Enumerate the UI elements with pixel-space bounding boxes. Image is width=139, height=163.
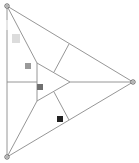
vertex-dot-right: [132, 81, 134, 83]
region-lines: [7, 6, 133, 157]
trail-marker-4: [57, 116, 63, 122]
diagram-svg: [0, 0, 139, 163]
connector-line-5: [54, 92, 69, 120]
connector-line-3: [54, 44, 69, 72]
inner-triangle: [37, 63, 70, 101]
trail-marker-0: [6, 20, 8, 30]
vertex-dot-top-left: [6, 5, 8, 7]
triangle-diagram: [0, 0, 139, 163]
trail-marker-2: [25, 63, 31, 69]
vertex-dot-bottom-left: [6, 156, 8, 158]
trail-marker-3: [37, 84, 43, 90]
connector-line-1: [7, 101, 37, 157]
trail-marker-1: [12, 34, 20, 43]
